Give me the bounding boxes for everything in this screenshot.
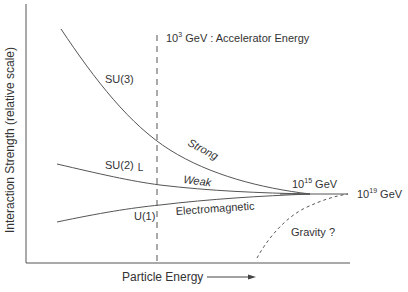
planck-scale-label: 1019 GeV bbox=[357, 187, 403, 200]
weak-label: Weak bbox=[183, 173, 213, 188]
unification-diagram: Interaction Strength (relative scale) Pa… bbox=[0, 0, 408, 292]
strong-curve bbox=[61, 29, 310, 194]
arrow-right-icon bbox=[248, 275, 256, 280]
x-axis-label: Particle Energy bbox=[122, 270, 203, 284]
gut-scale-label: 1015 GeV bbox=[292, 177, 338, 190]
gravity-label: Gravity ? bbox=[291, 226, 335, 238]
su2-label: SU(2)L bbox=[105, 159, 144, 173]
su3-label: SU(3) bbox=[105, 73, 134, 85]
y-axis-label: Interaction Strength (relative scale) bbox=[3, 47, 17, 233]
strong-label: Strong bbox=[186, 136, 221, 162]
accelerator-energy-label: 103 GeV : Accelerator Energy bbox=[166, 31, 310, 44]
u1-label: U(1) bbox=[134, 210, 155, 222]
